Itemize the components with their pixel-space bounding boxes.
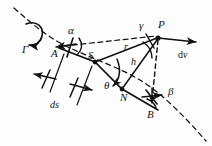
rotation-arrow-arc [26,23,42,45]
label-beta: β [168,86,173,97]
label-point-s: S [88,50,94,61]
ds-guide-line-left [50,54,64,92]
diagram-canvas: Γ α A S r γ P dv h θ N β B ds [0,0,212,146]
diagram-vector-graphics [0,0,212,146]
label-gamma-capital: Γ [22,44,28,55]
label-alpha: α [68,25,74,36]
label-radius-r: r [124,42,128,52]
label-dv-symbol: v [183,49,187,60]
point-marker-p [155,35,160,40]
label-arc-ds: ds [50,100,59,110]
ds-dimension-arrow-left [34,74,56,79]
label-point-b: B [147,109,154,120]
label-point-n: N [120,92,127,103]
label-height-h: h [131,57,136,67]
label-velocity-dv: dv [178,50,187,60]
ds-tick-left [42,70,50,88]
ds-guide-line-right [77,66,92,105]
label-theta: θ [104,80,109,91]
trajectory-dashed-curve [14,8,206,141]
label-point-p: P [158,19,165,30]
label-gamma: γ [139,20,143,31]
label-point-a: A [51,48,58,59]
ds-tick-right [70,78,78,97]
velocity-vector-dv [158,38,196,42]
angle-arc-gamma [143,42,152,58]
